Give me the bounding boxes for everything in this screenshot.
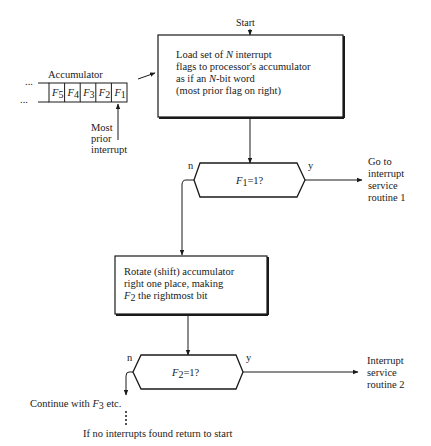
dotted-continuation bbox=[125, 411, 127, 425]
load-box-line-4: (most prior flag on right) bbox=[176, 85, 281, 97]
accumulator-ellipsis-top: ... bbox=[25, 76, 33, 87]
routine1-line-1: Go to bbox=[368, 156, 392, 167]
decision1-no-label: n bbox=[188, 160, 194, 171]
decision2-yes-label: y bbox=[246, 352, 252, 363]
decision1-yes-label: y bbox=[308, 160, 314, 171]
accumulator-cell-f3: F3 bbox=[82, 87, 94, 100]
routine1-line-4: routine 1 bbox=[368, 192, 406, 203]
accumulator-to-box-arrow bbox=[138, 73, 155, 79]
pointer-label-prior: prior bbox=[91, 133, 112, 144]
accumulator-ellipsis-bottom: ... bbox=[20, 94, 28, 105]
start-label: Start bbox=[236, 17, 255, 28]
decision-f2: F2=1? n y bbox=[127, 352, 252, 389]
routine1-line-2: interrupt bbox=[368, 168, 404, 179]
pointer-label-interrupt: interrupt bbox=[91, 144, 127, 155]
load-box-line-3: as if an N-bit word bbox=[176, 73, 256, 84]
interrupt-polling-flowchart: Start Load set of N interrupt flags to p… bbox=[0, 0, 431, 446]
accumulator-cell-f1: F1 bbox=[113, 87, 125, 100]
accumulator-label: Accumulator bbox=[48, 69, 103, 80]
routine2-line-2: service bbox=[367, 367, 397, 378]
rotate-accumulator-box: Rotate (shift) accumulator right one pla… bbox=[115, 256, 268, 315]
routine2-line-3: routine 2 bbox=[367, 379, 405, 390]
decision2-no-arrow bbox=[126, 372, 133, 395]
routine2-line-1: Interrupt bbox=[367, 355, 404, 366]
routine1-line-3: service bbox=[368, 180, 398, 191]
decision1-no-arrow bbox=[182, 180, 194, 255]
rotate-box-line-2: right one place, making bbox=[124, 278, 224, 289]
accumulator-cell-f5: F5 bbox=[51, 87, 63, 100]
load-box-line-1: Load set of N interrupt bbox=[176, 49, 272, 60]
decision2-no-label: n bbox=[127, 352, 133, 363]
load-box-line-2: flags to processor's accumulator bbox=[176, 61, 311, 72]
accumulator-register: Accumulator ... ... F5 F4 F3 F2 F1 Most … bbox=[20, 69, 127, 155]
decision-f1: F1=1? n y bbox=[188, 160, 314, 197]
pointer-label-most: Most bbox=[91, 122, 113, 133]
accumulator-cell-f4: F4 bbox=[67, 87, 79, 100]
load-flags-box: Load set of N interrupt flags to process… bbox=[158, 35, 344, 118]
continue-label: Continue with F3 etc. bbox=[30, 398, 121, 411]
accumulator-cell-f2: F2 bbox=[98, 87, 110, 100]
return-to-start-label: If no interrupts found return to start bbox=[83, 428, 232, 439]
rotate-box-line-1: Rotate (shift) accumulator bbox=[124, 266, 235, 278]
